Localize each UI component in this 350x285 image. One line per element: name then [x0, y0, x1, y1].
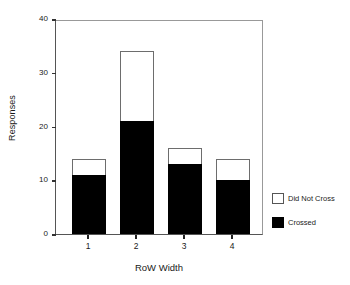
legend-label-crossed: Crossed: [288, 217, 316, 228]
legend-item-crossed: Crossed: [272, 217, 348, 228]
bar-group: [168, 148, 202, 234]
x-tick-label: 2: [121, 241, 151, 251]
bar-group: [216, 159, 250, 234]
x-tick-mark: [231, 235, 233, 239]
x-tick-mark: [135, 235, 137, 239]
bar-series-container: [56, 21, 262, 234]
y-tick-mark: [52, 234, 56, 236]
bar-group: [120, 51, 154, 234]
y-tick-mark: [52, 180, 56, 182]
bar-segment-did-not-cross: [72, 159, 106, 175]
legend-item-did-not-cross: Did Not Cross: [272, 193, 348, 204]
bar-segment-did-not-cross: [120, 51, 154, 121]
y-tick-label: 0: [18, 229, 48, 238]
chart-figure: Responses 010203040 1234 RoW Width Did N…: [0, 0, 350, 285]
x-tick-label: 4: [217, 241, 247, 251]
bar-segment-did-not-cross: [168, 148, 202, 164]
bar-segment-crossed: [72, 175, 106, 234]
legend-swatch-filled-icon: [272, 217, 284, 228]
y-tick-label: 30: [18, 68, 48, 77]
x-axis-title: RoW Width: [55, 262, 263, 273]
y-axis-title: Responses: [7, 68, 17, 168]
chart-legend: Did Not Cross Crossed: [272, 193, 348, 241]
y-tick-label: 20: [18, 122, 48, 131]
bar-segment-crossed: [216, 180, 250, 234]
bar-segment-crossed: [120, 121, 154, 234]
legend-swatch-open-icon: [272, 193, 284, 204]
y-tick-label: 40: [18, 14, 48, 23]
plot-area: [55, 20, 263, 235]
x-tick-mark: [87, 235, 89, 239]
y-tick-mark: [52, 73, 56, 75]
x-tick-mark: [183, 235, 185, 239]
legend-label-did-not-cross: Did Not Cross: [288, 193, 335, 204]
bar-segment-did-not-cross: [216, 159, 250, 181]
y-tick-mark: [52, 127, 56, 129]
y-tick-label: 10: [18, 175, 48, 184]
x-tick-label: 1: [73, 241, 103, 251]
y-tick-mark: [52, 19, 56, 21]
x-tick-label: 3: [169, 241, 199, 251]
bar-segment-crossed: [168, 164, 202, 234]
bar-group: [72, 159, 106, 234]
